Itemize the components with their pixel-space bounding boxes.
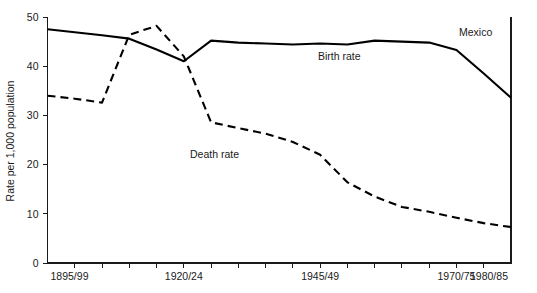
chart-axes (48, 17, 512, 263)
x-axis-tick-label: 1895/99 (51, 270, 89, 282)
y-axis-tick-label: 0 (33, 257, 39, 269)
birth-rate-label: Birth rate (318, 50, 361, 62)
y-axis-tick-label: 20 (27, 158, 39, 170)
y-axis-tick-label: 10 (27, 208, 39, 220)
chart-container: 01020304050 1895/991920/241945/491970/75… (0, 0, 537, 293)
chart-annotations: MexicoBirth rateDeath rate (190, 26, 492, 160)
data-series-group (48, 26, 512, 227)
series-death-rate (48, 26, 512, 227)
y-axis-tick-label: 30 (27, 109, 39, 121)
y-axis-title: Rate per 1,000 population (4, 80, 16, 201)
line-chart: 01020304050 1895/991920/241945/491970/75… (0, 0, 537, 293)
death-rate-label: Death rate (190, 148, 239, 160)
y-axis-tick-label: 50 (27, 11, 39, 23)
x-axis-ticks: 1895/991920/241945/491970/751980/85 (51, 263, 509, 282)
y-axis-tick-label: 40 (27, 60, 39, 72)
country-label: Mexico (459, 26, 492, 38)
y-axis-ticks: 01020304050 (27, 11, 48, 269)
x-axis-tick-label: 1920/24 (165, 270, 203, 282)
x-axis-tick-label: 1945/49 (301, 270, 339, 282)
x-axis-tick-label: 1980/85 (470, 270, 508, 282)
